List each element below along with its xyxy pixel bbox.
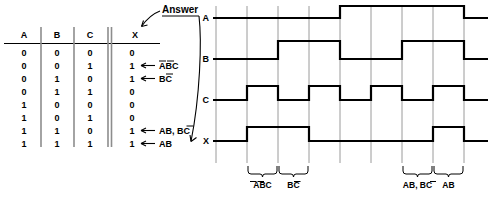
table-row: 0 0 0 0: [21, 48, 134, 58]
table-row: 0 1 0 1 BC: [21, 74, 173, 84]
timing-diagram: A B C X ABC BC: [203, 6, 489, 190]
cell-b: 0: [54, 48, 59, 58]
brace-abc: [248, 166, 277, 177]
cell-b: 1: [54, 139, 59, 149]
cell-x: 0: [129, 48, 134, 58]
cell-a: 0: [21, 87, 26, 97]
cell-b: 1: [54, 74, 59, 84]
cell-x: 1: [129, 126, 134, 136]
cell-x: 1: [129, 61, 134, 71]
annotation-arrow: [141, 141, 155, 146]
cell-a: 1: [21, 139, 26, 149]
table-row: 1 0 1 0: [21, 113, 134, 123]
cell-c: 0: [87, 100, 92, 110]
waveform-label-A: A: [203, 13, 210, 23]
brace-bc: [279, 166, 308, 177]
cell-b: 0: [54, 61, 59, 71]
waveform-B: [213, 41, 488, 59]
annotation-label-ab-bc: AB, BC: [159, 126, 194, 136]
waveform-label-B: B: [203, 54, 210, 64]
brace-label-abc: ABC: [250, 180, 272, 190]
annotation-arrow: [141, 76, 155, 81]
table-row: 1 0 0 0: [21, 100, 134, 110]
table-header-B: B: [54, 30, 61, 40]
brace-label-bc: BC: [287, 180, 300, 190]
table-header-A: A: [21, 30, 28, 40]
cell-x: 0: [129, 87, 134, 97]
annotation-arrow: [141, 128, 155, 133]
waveform-label-X: X: [203, 136, 209, 146]
waveform-C: [213, 86, 488, 100]
cell-c: 1: [87, 139, 92, 149]
cell-b: 0: [54, 113, 59, 123]
cell-b: 1: [54, 87, 59, 97]
brace-label-ab: AB: [442, 180, 454, 190]
answer-label: Answer: [162, 4, 198, 15]
cell-c: 0: [87, 74, 92, 84]
table-row: 0 1 1 0: [21, 87, 134, 97]
truth-table: A B C X 0 0 0 0 0 0 1 1: [4, 27, 194, 149]
table-row: 0 0 1 1 ABC: [21, 61, 179, 71]
cell-a: 1: [21, 113, 26, 123]
cell-a: 0: [21, 48, 26, 58]
waveform-label-C: C: [203, 95, 210, 105]
cell-x: 0: [129, 113, 134, 123]
table-row: 1 1 1 1 AB: [21, 139, 172, 149]
annotation-text: BC: [159, 74, 172, 84]
answer-curve-head: [190, 135, 197, 142]
cell-b: 1: [54, 126, 59, 136]
brace-text: AB, BC: [403, 180, 432, 190]
brace-ab: [434, 166, 463, 177]
cell-a: 1: [21, 126, 26, 136]
table-header-C: C: [87, 30, 94, 40]
annotation-label-abc: ABC: [159, 61, 179, 71]
timing-braces: ABC BC AB, BC AB: [248, 166, 463, 190]
figure-svg: A B C X 0 0 0 0 0 0 1 1: [0, 0, 496, 198]
cell-c: 1: [87, 61, 92, 71]
annotation-label-bc: BC: [159, 74, 173, 84]
cell-b: 0: [54, 100, 59, 110]
answer-arrow-line: [142, 11, 161, 27]
annotation-text: AB, BC: [159, 126, 190, 136]
annotation-arrow: [141, 63, 155, 68]
waveform-A: [213, 6, 488, 18]
cell-a: 0: [21, 61, 26, 71]
cell-a: 0: [21, 74, 26, 84]
cell-c: 0: [87, 48, 92, 58]
cell-c: 1: [87, 113, 92, 123]
waveform-X: [213, 127, 488, 141]
table-header-X: X: [132, 30, 138, 40]
cell-x: 0: [129, 100, 134, 110]
figure-root: A B C X 0 0 0 0 0 0 1 1: [0, 0, 496, 198]
brace-label-ab-bc: AB, BC: [403, 180, 436, 190]
brace-ab-bc: [403, 166, 432, 177]
cell-c: 1: [87, 87, 92, 97]
cell-x: 1: [129, 139, 134, 149]
annotation-label-ab: AB: [159, 139, 172, 149]
answer-curve-line: [191, 16, 200, 142]
cell-c: 0: [87, 126, 92, 136]
annotation-text: ABC: [159, 61, 179, 71]
cell-x: 1: [129, 74, 134, 84]
cell-a: 1: [21, 100, 26, 110]
